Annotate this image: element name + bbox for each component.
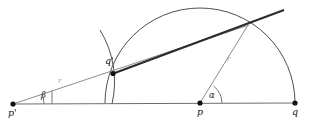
label-point-p: p	[197, 107, 203, 117]
radius-line-p-to-intersection	[200, 25, 248, 103]
label-angle-alpha: α	[209, 91, 215, 100]
label-point-q: q	[292, 107, 298, 117]
label-point-q-prime: q'	[105, 56, 114, 66]
large-semicircle-arc	[105, 8, 295, 103]
label-radius-right: r	[227, 56, 230, 63]
point-p	[197, 100, 202, 105]
label-angle-beta: β	[41, 91, 46, 100]
diagram-canvas	[0, 0, 313, 125]
point-q-prime	[110, 71, 115, 76]
baseline-segment	[13, 103, 297, 104]
label-radius-left: r	[58, 78, 61, 85]
label-point-p-prime: p'	[8, 108, 17, 118]
geometry-figure: p' q' p q β α r r	[0, 0, 313, 125]
point-p-prime	[10, 101, 15, 106]
thick-ray-through-q-prime	[112, 10, 284, 74]
point-q	[292, 100, 297, 105]
